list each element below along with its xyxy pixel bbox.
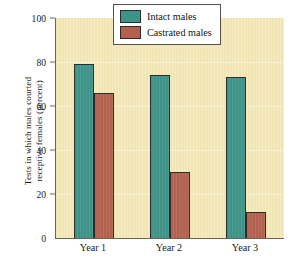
y-axis-tick-labels: 020406080100 (0, 0, 55, 275)
y-tick-label: 40 (36, 145, 46, 156)
x-tick-label: Year 1 (80, 242, 106, 253)
legend-swatch-icon (120, 10, 141, 23)
bar-texture (95, 94, 113, 238)
legend-label: Castrated males (147, 27, 212, 38)
bar-intact-males-year-3 (226, 77, 246, 238)
y-tick-label: 60 (36, 101, 46, 112)
bar-intact-males-year-1 (74, 64, 94, 238)
y-tick-label: 0 (41, 233, 46, 244)
y-tick-label: 80 (36, 57, 46, 68)
plot-area (55, 18, 284, 239)
x-tick-label: Year 2 (156, 242, 182, 253)
x-tick-label: Year 3 (232, 242, 258, 253)
x-axis-tick-labels: Year 1Year 2Year 3 (55, 242, 283, 262)
legend-swatch-icon (120, 26, 141, 39)
bar-castrated-males-year-2 (170, 172, 190, 238)
y-tick-label: 20 (36, 189, 46, 200)
bar-texture (171, 173, 189, 238)
bar-castrated-males-year-3 (246, 212, 266, 238)
bar-group-container (56, 18, 284, 238)
bar-texture (151, 76, 169, 238)
chart-legend: Intact malesCastrated males (113, 4, 221, 45)
legend-item: Intact males (120, 10, 212, 23)
bar-texture (227, 78, 245, 238)
bar-texture (247, 213, 265, 238)
legend-item: Castrated males (120, 26, 212, 39)
bar-texture (75, 65, 93, 238)
legend-label: Intact males (147, 11, 197, 22)
y-tick-label: 100 (32, 13, 46, 24)
bar-castrated-males-year-1 (94, 93, 114, 238)
chart-figure: Tests in which males courted receptive f… (0, 0, 306, 275)
bar-intact-males-year-2 (150, 75, 170, 238)
